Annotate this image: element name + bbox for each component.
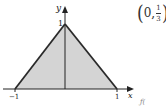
close-paren: ) — [162, 2, 166, 25]
fraction-one-third: 1 3 — [156, 4, 161, 23]
y-axis-label: y — [56, 4, 61, 13]
fraction-numerator: 1 — [156, 4, 160, 12]
y-axis-arrow-icon — [62, 6, 68, 13]
stray-function-text: ƒ( — [140, 99, 145, 106]
point-x-value: 0, — [144, 6, 155, 20]
x-axis-label: x — [128, 92, 133, 100]
y-tick-label-1: 1 — [58, 20, 63, 28]
shaded-triangle-region — [15, 24, 117, 89]
x-tick-label-neg1: −1 — [9, 94, 19, 101]
fraction-bar — [156, 13, 161, 14]
point-annotation: ( 0, 1 3 ) — [137, 3, 166, 23]
x-tick-label-1: 1 — [115, 94, 119, 101]
open-paren: ( — [137, 2, 144, 25]
fraction-denominator: 3 — [156, 15, 160, 23]
